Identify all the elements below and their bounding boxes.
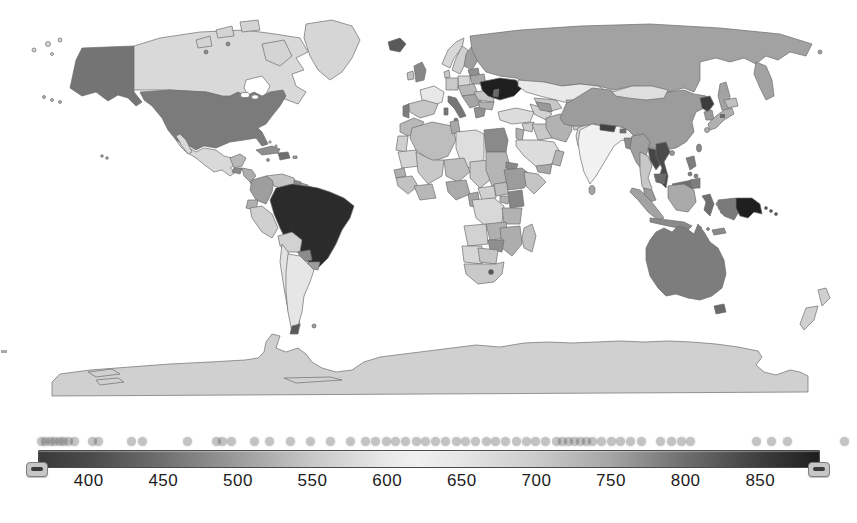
country-denmark [444,70,450,78]
distribution-dot [616,437,625,446]
country-angola [464,224,488,246]
distribution-dot [522,437,531,446]
country-botswana [478,248,498,264]
distribution-dot [183,437,192,446]
jamaica [267,159,270,162]
country-north-korea [700,96,714,112]
south-sudan [494,182,508,196]
new-zealand-north [818,288,830,306]
lesser-sunda [707,228,710,231]
distribution-dot [286,437,295,446]
arctic-island-east [818,50,822,54]
distribution-dot [626,437,635,446]
sulawesi [702,194,714,216]
antarctica [52,334,808,396]
country-south-korea [704,110,714,120]
japan-dark-patch [720,114,725,118]
hawaii [101,155,104,158]
philippines-luzon [686,156,696,170]
distribution-dot [361,437,370,446]
tick-label: 700 [522,471,552,491]
arctic-island [240,20,260,32]
wrap-island [46,42,51,47]
arctic-island [204,50,208,54]
country-bhutan [620,129,626,133]
country-uk [414,62,426,82]
country-portugal [403,104,409,118]
philippines-visayas [694,174,698,178]
country-tanzania [502,208,522,224]
distribution-dot [382,437,391,446]
arctic-island [226,42,230,46]
country-sri-lanka [589,186,595,195]
distribution-dot [512,437,521,446]
bahamas [269,141,271,143]
distribution-dot [637,437,646,446]
tick-label: 650 [447,471,477,491]
falkland-islands [312,324,316,328]
distribution-dot [471,437,480,446]
great-lakes [252,95,259,99]
country-italy [448,96,466,118]
country-lesotho [489,270,494,275]
aleutian-island [43,96,46,99]
distribution-dot [783,437,792,446]
distribution-dot [421,437,430,446]
country-nigeria [446,180,470,200]
taiwan [697,144,702,152]
country-papua-new-guinea [736,198,762,218]
distribution-dot [607,437,616,446]
tick-label: 450 [148,471,178,491]
solomon-islands [770,210,773,213]
tick-label: 550 [298,471,328,491]
tick-label: 850 [745,471,775,491]
tick-label: 400 [74,471,104,491]
philippines-visayas [688,172,692,176]
kamchatka [754,62,774,100]
country-germany [446,78,458,90]
country-australia [646,224,726,300]
country-spain [408,100,438,118]
country-somalia [524,172,546,194]
arctic-island [216,26,234,38]
distribution-dot [412,437,421,446]
distribution-dot [491,437,500,446]
tasmania [714,304,726,314]
distribution-dot [250,437,259,446]
distribution-dot [501,437,510,446]
philippines-mindanao [690,178,700,188]
distribution-dot [70,437,79,446]
country-madagascar [522,224,536,252]
country-turkey [498,108,534,124]
japan-kyushu [705,128,710,133]
tick-label: 600 [372,471,402,491]
distribution-dot [265,437,274,446]
country-greenland [304,20,360,80]
timor [712,228,726,235]
wrap-island [32,48,36,52]
country-alaska [70,46,142,106]
colorbar-gradient[interactable] [38,450,820,468]
distribution-dot [840,437,849,446]
country-kenya [508,190,524,208]
aleutian-island [51,99,54,102]
tick-label: 750 [596,471,626,491]
sardinia [444,108,448,115]
distribution-dot [371,437,380,446]
distribution-dot [441,437,450,446]
distribution-dot [346,437,355,446]
guinea-region [396,176,418,194]
distribution-dot [461,437,470,446]
country-ireland [407,71,414,80]
distribution-dot [127,437,136,446]
great-lakes [241,92,250,97]
solomon-islands [765,207,768,210]
distribution-dot [686,437,695,446]
distribution-dot [227,437,236,446]
distribution-dot [94,437,103,446]
color-scale-legend: 400450500550600650700750800850 [38,434,820,494]
distribution-dot [677,437,686,446]
value-distribution-dots [38,434,820,450]
puerto-rico [293,156,297,159]
country-south-africa [464,262,504,284]
